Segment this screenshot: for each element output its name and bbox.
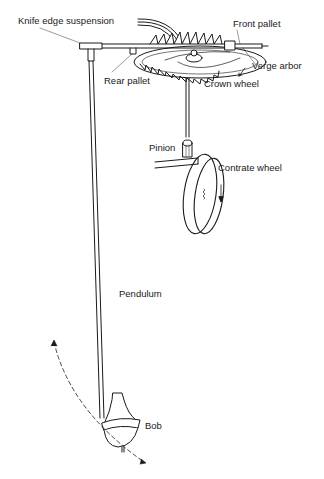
label-pinion: Pinion xyxy=(149,143,175,153)
label-crown-wheel: Crown wheel xyxy=(204,79,259,89)
label-front-pallet: Front pallet xyxy=(233,19,281,29)
verge-escapement-diagram xyxy=(0,0,324,479)
label-rear-pallet: Rear pallet xyxy=(104,76,150,86)
pendulum-bob xyxy=(102,393,140,452)
pinion xyxy=(183,140,192,157)
label-bob: Bob xyxy=(145,421,162,431)
upper-guide-arc xyxy=(138,19,182,42)
knife-edge-suspension xyxy=(80,43,102,61)
pendulum-rod xyxy=(89,61,104,418)
label-contrate-wheel: Contrate wheel xyxy=(218,163,282,173)
label-pendulum: Pendulum xyxy=(119,289,162,299)
crown-wheel xyxy=(134,32,266,84)
label-knife-edge-suspension: Knife edge suspension xyxy=(18,16,114,26)
crown-wheel-shaft xyxy=(186,78,189,137)
label-verge-arbor: Verge arbor xyxy=(252,61,302,71)
leader-lines xyxy=(40,28,256,72)
